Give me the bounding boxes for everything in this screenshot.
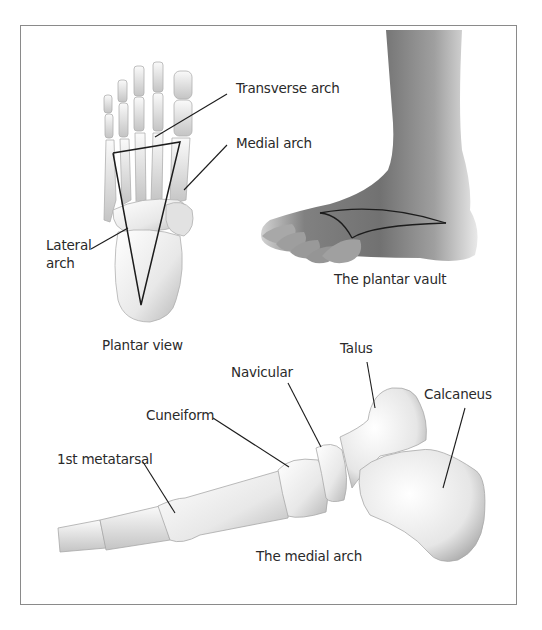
label-medial-arch: Medial arch	[236, 135, 312, 151]
caption-plantar-vault: The plantar vault	[334, 271, 446, 287]
caption-plantar-view: Plantar view	[102, 337, 183, 353]
label-navicular: Navicular	[231, 364, 293, 380]
label-talus: Talus	[340, 340, 373, 356]
label-lateral-arch-line2: arch	[46, 255, 75, 271]
label-cuneiform: Cuneiform	[146, 407, 214, 423]
plantar-foot-skeleton	[104, 62, 193, 322]
caption-medial-arch: The medial arch	[256, 548, 362, 564]
label-transverse-arch: Transverse arch	[236, 80, 340, 96]
label-lateral-arch-line1: Lateral	[46, 237, 92, 253]
medial-arch-skeleton	[58, 388, 485, 562]
label-calcaneus: Calcaneus	[424, 386, 492, 402]
label-first-metatarsal: 1st metatarsal	[57, 451, 153, 467]
